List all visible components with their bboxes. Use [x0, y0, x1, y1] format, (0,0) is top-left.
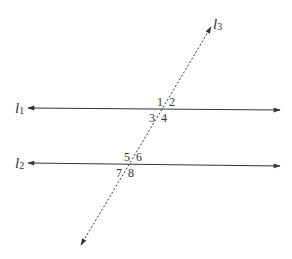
angle-2: 2: [169, 95, 175, 109]
label-l1: l1: [15, 100, 24, 116]
angle-5: 5: [124, 150, 130, 164]
angle-6: 6: [136, 150, 142, 164]
label-l3-subscript: 3: [217, 21, 222, 32]
label-l2-subscript: 2: [19, 160, 24, 171]
angle-4: 4: [161, 111, 167, 125]
label-l2: l2: [15, 155, 24, 171]
line-l2: [28, 163, 280, 166]
angle-8: 8: [128, 166, 134, 180]
line-l1: [28, 108, 280, 110]
label-l3: l3: [213, 16, 222, 32]
angle-3: 3: [149, 111, 155, 125]
angle-1: 1: [157, 95, 163, 109]
line-l3-transversal: [81, 27, 211, 245]
angle-7: 7: [116, 166, 122, 180]
label-l1-subscript: 1: [19, 105, 24, 116]
diagram-canvas: l1 l2 l3 1 2 3 4 5 6 7 8: [0, 0, 292, 259]
